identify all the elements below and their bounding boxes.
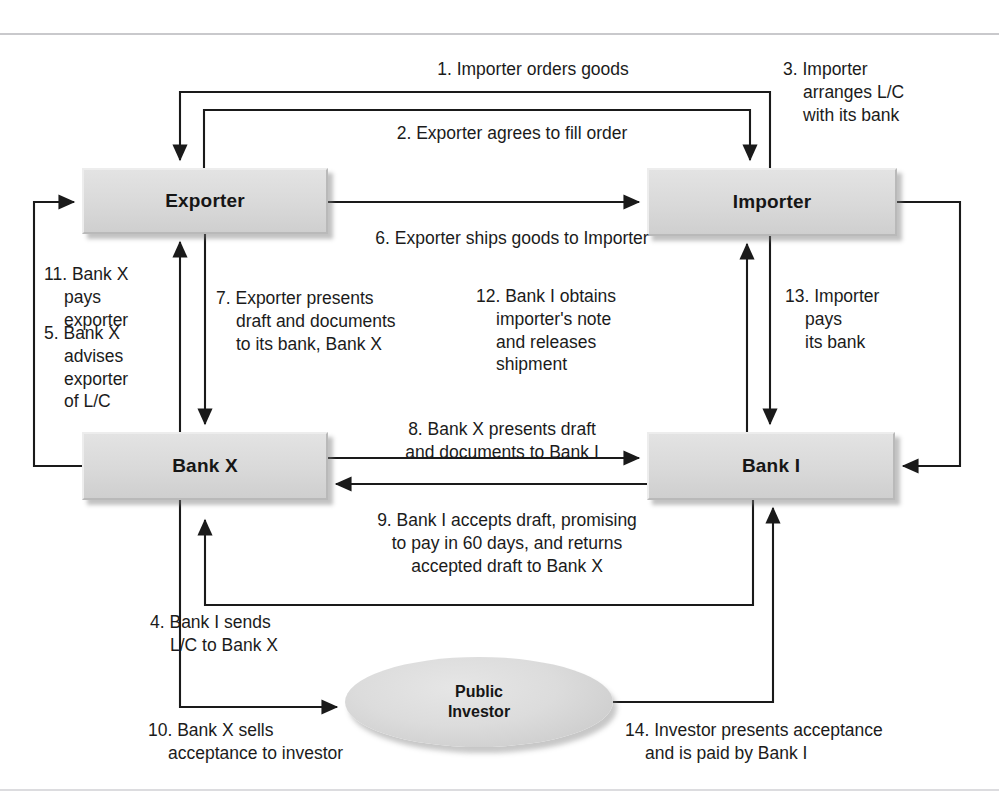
step-label-9: 9. Bank I accepts draft, promising to pa… — [352, 509, 662, 577]
node-importer-label: Importer — [733, 191, 812, 213]
node-importer[interactable]: Importer — [647, 168, 897, 236]
step-label-7: 7. Exporter presents draft and documents… — [216, 287, 476, 355]
step-label-8: 8. Bank X presents draft and documents t… — [352, 418, 652, 464]
step-label-10: 10. Bank X sells acceptance to investor — [148, 719, 398, 765]
node-public-investor-label: Public Investor — [448, 682, 510, 721]
step-label-11: 11. Bank X pays exporter — [44, 263, 196, 331]
step-label-13: 13. Importer pays its bank — [785, 285, 955, 353]
node-exporter[interactable]: Exporter — [82, 168, 328, 234]
node-exporter-label: Exporter — [165, 190, 245, 212]
node-bank-x[interactable]: Bank X — [82, 432, 328, 500]
node-bank-i-label: Bank I — [742, 455, 800, 477]
step-label-1: 1. Importer orders goods — [383, 58, 683, 81]
node-bank-i[interactable]: Bank I — [647, 432, 895, 500]
diagram-canvas: Exporter Importer Bank X Bank I Public I… — [0, 0, 999, 801]
step-label-14: 14. Investor presents acceptance and is … — [625, 719, 955, 765]
node-bank-x-label: Bank X — [172, 455, 238, 477]
connector-step-4 — [180, 500, 337, 707]
step-label-3: 3. Importer arranges L/C with its bank — [783, 58, 993, 126]
step-label-12: 12. Bank I obtains importer's note and r… — [476, 285, 706, 376]
node-public-investor-label-line2: Investor — [448, 702, 510, 722]
node-public-investor-label-line1: Public — [455, 683, 503, 700]
step-label-2: 2. Exporter agrees to fill order — [362, 122, 662, 145]
step-label-4: 4. Bank I sends L/C to Bank X — [150, 611, 370, 657]
step-label-6: 6. Exporter ships goods to Importer — [352, 227, 672, 250]
step-label-5: 5. Bank X advises exporter of L/C — [44, 322, 196, 413]
